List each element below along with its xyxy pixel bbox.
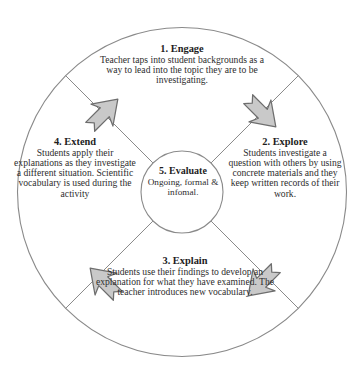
five-e-cycle-diagram: 1. Engage Teacher taps into student back… [0,0,356,376]
arrow-extend-to-engage [79,88,129,138]
arrow-engage-to-explore [237,88,287,138]
arrow-explain-to-extend [79,257,129,307]
arrow-explore-to-explain [237,257,287,307]
diagram-canvas [0,0,356,376]
spoke-upper-left [66,76,153,163]
center-circle [141,151,223,233]
